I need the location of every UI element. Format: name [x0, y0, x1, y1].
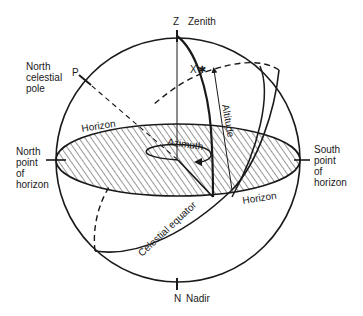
- north-point-label-4: horizon: [16, 179, 49, 190]
- north-point-label-1: North: [16, 146, 40, 157]
- celestial-sphere-diagram: Z Zenith P North celestial pole X ✱ Nort…: [0, 0, 363, 316]
- north-point-label-3: of: [16, 168, 25, 179]
- star-icon: ✱: [198, 64, 206, 75]
- north-celestial-pole-label-1: North: [26, 61, 50, 72]
- pole-letter: P: [72, 67, 79, 78]
- south-point-label-2: point: [314, 155, 336, 166]
- zenith-label: Zenith: [188, 16, 216, 27]
- celestial-equator-back: [94, 184, 111, 251]
- north-celestial-pole-label-3: pole: [26, 83, 45, 94]
- north-point-label-2: point: [16, 157, 38, 168]
- south-point-label-4: horizon: [314, 177, 347, 188]
- nadir-letter: N: [174, 293, 181, 304]
- star-letter: X: [190, 64, 197, 75]
- horizon-label-lower: Horizon: [242, 190, 278, 206]
- celestial-equator-label: Celestial equator: [136, 199, 199, 259]
- zenith-letter: Z: [173, 16, 179, 27]
- nadir-label: Nadir: [186, 293, 211, 304]
- north-celestial-pole-label-2: celestial: [26, 72, 62, 83]
- south-point-label-3: of: [314, 166, 323, 177]
- south-point-label-1: South: [314, 144, 340, 155]
